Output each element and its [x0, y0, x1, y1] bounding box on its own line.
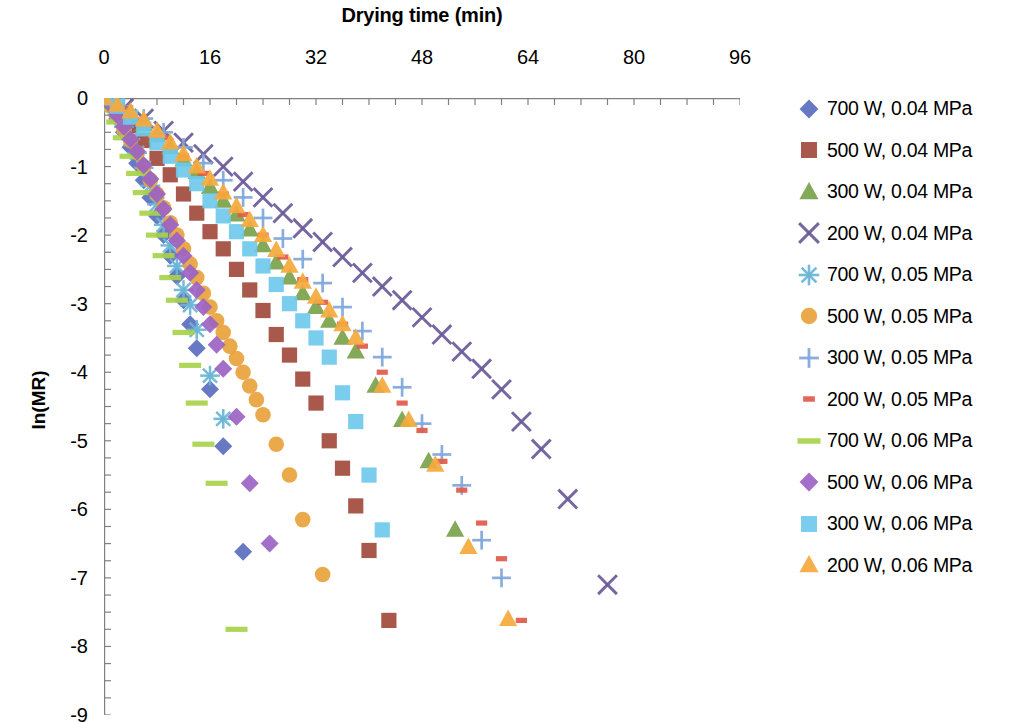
y-tick-label: -8 — [70, 635, 88, 658]
data-point-square — [308, 330, 323, 345]
legend-item[interactable]: 500 W, 0.04 MPa — [796, 130, 1022, 172]
chart-legend: 700 W, 0.04 MPa500 W, 0.04 MPa300 W, 0.0… — [796, 88, 1022, 586]
legend-marker-dash-long-icon — [796, 428, 822, 454]
data-point-plus — [492, 568, 511, 587]
data-point-diamond — [188, 339, 206, 357]
data-point-square — [322, 350, 337, 365]
legend-item-label: 300 W, 0.04 MPa — [827, 180, 972, 203]
data-point-square — [269, 327, 284, 342]
data-point-plus — [472, 531, 491, 550]
data-point-dash — [516, 618, 527, 623]
data-point-square — [348, 498, 363, 513]
data-point-square — [381, 613, 396, 628]
data-point-circle — [242, 378, 258, 394]
data-point-dash-long — [179, 363, 201, 368]
legend-item[interactable]: 200 W, 0.06 MPa — [796, 545, 1022, 587]
x-tick-label: 48 — [411, 46, 433, 69]
legend-marker-asterisk-icon — [796, 262, 822, 288]
data-point-square — [229, 262, 244, 277]
x-tick-label: 16 — [199, 46, 221, 69]
data-point-x — [373, 277, 392, 296]
legend-item-label: 500 W, 0.05 MPa — [827, 305, 972, 328]
data-point-square — [255, 303, 270, 318]
data-point-x — [598, 575, 617, 594]
legend-item-label: 200 W, 0.04 MPa — [827, 222, 972, 245]
data-point-square — [176, 186, 191, 201]
data-point-dash-long — [192, 442, 214, 447]
x-tick-label: 96 — [729, 46, 751, 69]
data-point-square — [361, 467, 376, 482]
legend-item[interactable]: 300 W, 0.05 MPa — [796, 337, 1022, 379]
data-point-asterisk — [799, 264, 820, 285]
data-point-diamond — [234, 543, 252, 561]
data-point-circle — [255, 407, 271, 423]
legend-item[interactable]: 700 W, 0.06 MPa — [796, 420, 1022, 462]
data-point-diamond — [261, 535, 279, 553]
legend-item[interactable]: 500 W, 0.05 MPa — [796, 296, 1022, 338]
data-point-square — [216, 208, 231, 223]
data-point-circle — [315, 567, 331, 583]
scatter-plot-canvas — [104, 98, 740, 715]
legend-item-label: 700 W, 0.06 MPa — [827, 429, 972, 452]
legend-item[interactable]: 700 W, 0.04 MPa — [796, 88, 1022, 130]
data-point-square — [176, 162, 191, 177]
data-point-plus — [293, 250, 312, 269]
data-point-dash — [496, 556, 507, 561]
x-axis-tick-labels: 0163248648096 — [0, 46, 1022, 76]
data-point-x — [313, 233, 332, 252]
data-point-diamond — [800, 99, 819, 118]
data-point-dash-long — [173, 330, 195, 335]
data-point-dash — [397, 400, 408, 405]
legend-item-label: 300 W, 0.05 MPa — [827, 346, 972, 369]
legend-item[interactable]: 300 W, 0.06 MPa — [796, 503, 1022, 545]
legend-item-label: 300 W, 0.06 MPa — [827, 512, 972, 535]
data-point-dash — [456, 488, 467, 493]
data-point-dash-long — [186, 400, 208, 405]
data-point-x — [512, 412, 531, 431]
data-point-square — [242, 282, 257, 297]
legend-item-label: 500 W, 0.04 MPa — [827, 139, 972, 162]
x-tick-label: 64 — [517, 46, 539, 69]
data-point-plus — [799, 348, 819, 368]
data-point-square — [163, 149, 178, 164]
data-point-diamond — [214, 437, 232, 455]
legend-item[interactable]: 700 W, 0.05 MPa — [796, 254, 1022, 296]
data-point-diamond — [800, 473, 819, 492]
data-point-square — [335, 385, 350, 400]
legend-item-label: 200 W, 0.05 MPa — [827, 388, 972, 411]
legend-marker-square-icon — [796, 511, 822, 537]
data-point-triangle — [499, 609, 517, 626]
data-point-square — [335, 461, 350, 476]
y-tick-label: -3 — [70, 292, 88, 315]
data-point-diamond — [241, 474, 259, 492]
legend-marker-circle-icon — [796, 303, 822, 329]
chart-page: Drying time (min) ln(MR) 0163248648096 0… — [0, 0, 1022, 722]
data-point-square — [202, 224, 217, 239]
data-point-x — [558, 490, 577, 509]
legend-item-label: 500 W, 0.06 MPa — [827, 471, 972, 494]
x-tick-label: 80 — [623, 46, 645, 69]
y-tick-label: -5 — [70, 429, 88, 452]
data-point-x — [413, 308, 432, 327]
y-tick-label: -9 — [70, 704, 88, 722]
data-point-dash — [803, 397, 815, 402]
data-point-circle — [801, 308, 817, 324]
legend-item[interactable]: 200 W, 0.04 MPa — [796, 213, 1022, 255]
legend-marker-triangle-icon — [796, 552, 822, 578]
legend-marker-triangle-icon — [796, 179, 822, 205]
data-point-dash-long — [153, 253, 175, 258]
legend-item[interactable]: 200 W, 0.05 MPa — [796, 379, 1022, 421]
data-point-plus — [373, 348, 392, 367]
y-tick-label: -6 — [70, 498, 88, 521]
legend-item[interactable]: 300 W, 0.04 MPa — [796, 171, 1022, 213]
legend-marker-square-icon — [796, 137, 822, 163]
data-point-x — [492, 380, 511, 399]
data-point-dash-long — [226, 627, 248, 632]
data-point-square — [295, 313, 310, 328]
y-axis-tick-labels: 0-1-2-3-4-5-6-7-8-9 — [0, 0, 104, 722]
legend-marker-plus-icon — [796, 345, 822, 371]
data-point-square — [295, 371, 310, 386]
y-tick-label: -4 — [70, 361, 88, 384]
legend-item[interactable]: 500 W, 0.06 MPa — [796, 462, 1022, 504]
legend-item-label: 700 W, 0.04 MPa — [827, 97, 972, 120]
